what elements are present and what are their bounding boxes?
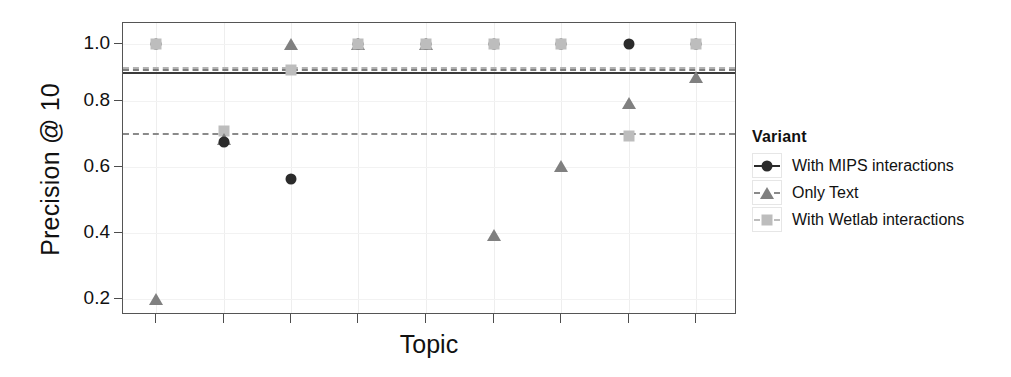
legend-item-only-text[interactable]: Only Text <box>752 179 1002 206</box>
y-tick-label-0-8: 0.8 <box>52 89 110 111</box>
gridline-h-0-8 <box>123 101 735 103</box>
legend-label-onlytext: Only Text <box>792 184 858 202</box>
point-onlytext-t6 <box>487 229 501 241</box>
legend-key-wetlab <box>752 207 782 232</box>
point-wetlab-t3 <box>286 65 297 76</box>
point-mips-t3 <box>286 174 297 185</box>
gridline-h-0-4 <box>123 233 735 235</box>
plot-panel <box>122 22 736 314</box>
y-tick-label-1-0: 1.0 <box>52 32 110 54</box>
legend-item-with-mips-interactions[interactable]: With MIPS interactions <box>752 152 1002 179</box>
x-axis-title: Topic <box>122 330 736 359</box>
point-wetlab-t6 <box>489 39 500 50</box>
y-tick-mark-0-4 <box>114 232 122 233</box>
y-tick-label-0-4: 0.4 <box>52 221 110 243</box>
legend-title: Variant <box>752 128 1002 146</box>
reference-line-onlytext-mean <box>123 133 735 135</box>
reference-line-onlytext-upper <box>123 69 735 71</box>
x-tick-mark-1 <box>155 314 156 323</box>
legend-item-with-wetlab-interactions[interactable]: With Wetlab interactions <box>752 206 1002 233</box>
gridline-h-0-6 <box>123 167 735 169</box>
point-onlytext-t9 <box>689 71 703 83</box>
point-onlytext-t7 <box>554 160 568 172</box>
y-axis-tick-labels: 1.0 0.8 0.6 0.4 0.2 <box>52 0 110 377</box>
point-wetlab-t1 <box>151 39 162 50</box>
chart-legend: Variant With MIPS interactions Only Text… <box>752 128 1002 233</box>
y-tick-label-0-6: 0.6 <box>52 155 110 177</box>
reference-line-mips-mean <box>123 72 735 74</box>
x-tick-mark-7 <box>560 314 561 323</box>
x-tick-mark-5 <box>425 314 426 323</box>
legend-label-mips: With MIPS interactions <box>792 157 954 175</box>
y-tick-mark-1-0 <box>114 43 122 44</box>
x-tick-mark-4 <box>357 314 358 323</box>
x-tick-mark-8 <box>628 314 629 323</box>
legend-key-onlytext <box>752 180 782 205</box>
y-tick-label-0-2: 0.2 <box>52 287 110 309</box>
x-tick-mark-3 <box>290 314 291 323</box>
point-onlytext-t1 <box>149 293 163 305</box>
y-tick-mark-0-2 <box>114 298 122 299</box>
point-mips-t8 <box>624 39 635 50</box>
point-onlytext-t8 <box>622 97 636 109</box>
point-wetlab-t4 <box>353 39 364 50</box>
point-wetlab-t7 <box>556 39 567 50</box>
legend-label-wetlab: With Wetlab interactions <box>792 211 964 229</box>
chart-figure: Precision @ 10 1.0 0.8 0.6 0.4 0.2 <box>0 0 1011 377</box>
point-wetlab-t9 <box>691 39 702 50</box>
square-marker-icon <box>762 214 773 225</box>
point-wetlab-t5 <box>421 39 432 50</box>
x-tick-mark-9 <box>695 314 696 323</box>
legend-key-mips <box>752 153 782 178</box>
gridline-h-0-2 <box>123 299 735 301</box>
x-tick-mark-2 <box>223 314 224 323</box>
point-mips-t2 <box>219 137 230 148</box>
point-onlytext-t3 <box>284 38 298 50</box>
x-tick-mark-6 <box>493 314 494 323</box>
point-wetlab-t8 <box>624 131 635 142</box>
y-tick-mark-0-6 <box>114 166 122 167</box>
circle-marker-icon <box>762 160 773 171</box>
y-tick-mark-0-8 <box>114 100 122 101</box>
triangle-marker-icon <box>760 187 774 199</box>
